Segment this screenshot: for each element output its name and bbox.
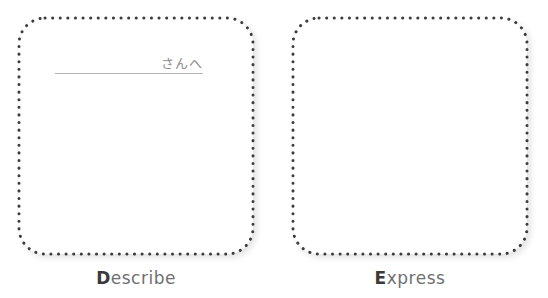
caption-rest: escribe [111, 268, 176, 288]
describe-card: さんへ [17, 16, 255, 256]
caption-rest: xpress [387, 268, 446, 288]
addressee-suffix: さんへ [161, 53, 203, 72]
dotted-border [291, 16, 529, 256]
describe-caption: Describe [17, 268, 255, 288]
dotted-border [17, 16, 255, 256]
addressee-line[interactable]: さんへ [55, 60, 203, 74]
caption-initial: D [96, 268, 111, 288]
express-card [291, 16, 529, 256]
caption-initial: E [375, 268, 387, 288]
express-caption: Express [291, 268, 529, 288]
